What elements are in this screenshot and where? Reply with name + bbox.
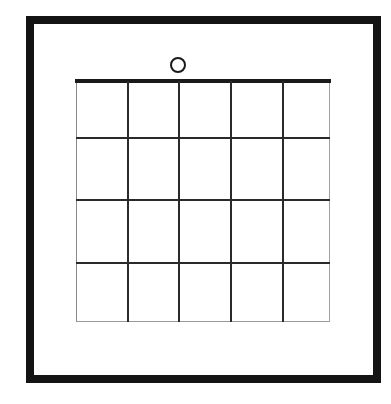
grid-column-line: [230, 81, 232, 322]
grid-column-line: [282, 81, 284, 322]
grid-column-line: [127, 81, 129, 322]
grid: [76, 81, 330, 322]
grid-row-line: [76, 199, 330, 201]
grid-column-line: [178, 81, 180, 322]
grid-row-line: [76, 262, 330, 264]
grid-row-line: [76, 137, 330, 139]
circle-marker-icon: [170, 57, 186, 73]
grid-top-edge: [75, 79, 331, 83]
